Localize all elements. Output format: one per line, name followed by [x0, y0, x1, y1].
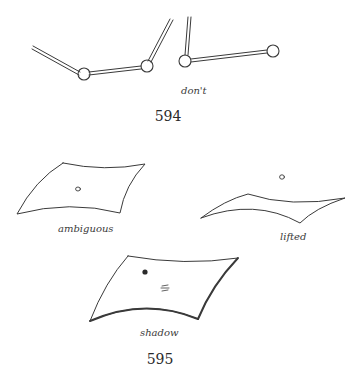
label-ambiguous: ambiguous — [58, 223, 113, 234]
panel-lifted: lifted — [201, 175, 345, 242]
dot-icon — [142, 269, 147, 274]
sheet-shadow-edge — [90, 308, 198, 321]
right-rod-chain — [179, 17, 279, 67]
label-shadow: shadow — [140, 327, 179, 338]
joint-circle — [267, 45, 279, 57]
caption-dont: don't — [181, 85, 208, 96]
panel-ambiguous: ambiguous — [17, 163, 145, 234]
figure-number-594: 594 — [155, 108, 182, 124]
figure-595: ambiguous lifted shadow 595 — [17, 163, 345, 367]
floating-circle — [280, 175, 285, 179]
joint-circle — [141, 60, 153, 72]
figure-594: don't 594 — [32, 17, 279, 124]
figure-canvas: don't 594 ambiguous lifted — [0, 0, 361, 376]
panel-shadow: shadow — [90, 256, 238, 338]
sheet-shadow-edge — [198, 258, 238, 319]
label-lifted: lifted — [280, 231, 306, 242]
left-rod-chain — [32, 19, 173, 80]
joint-circle — [78, 68, 90, 80]
shadow-mark-icon — [161, 285, 169, 291]
joint-circle — [179, 55, 191, 67]
curved-sheet — [201, 194, 345, 223]
figure-number-595: 595 — [147, 351, 174, 367]
curved-sheet — [17, 163, 145, 214]
floating-circle — [76, 187, 81, 191]
curved-sheet — [90, 256, 238, 321]
